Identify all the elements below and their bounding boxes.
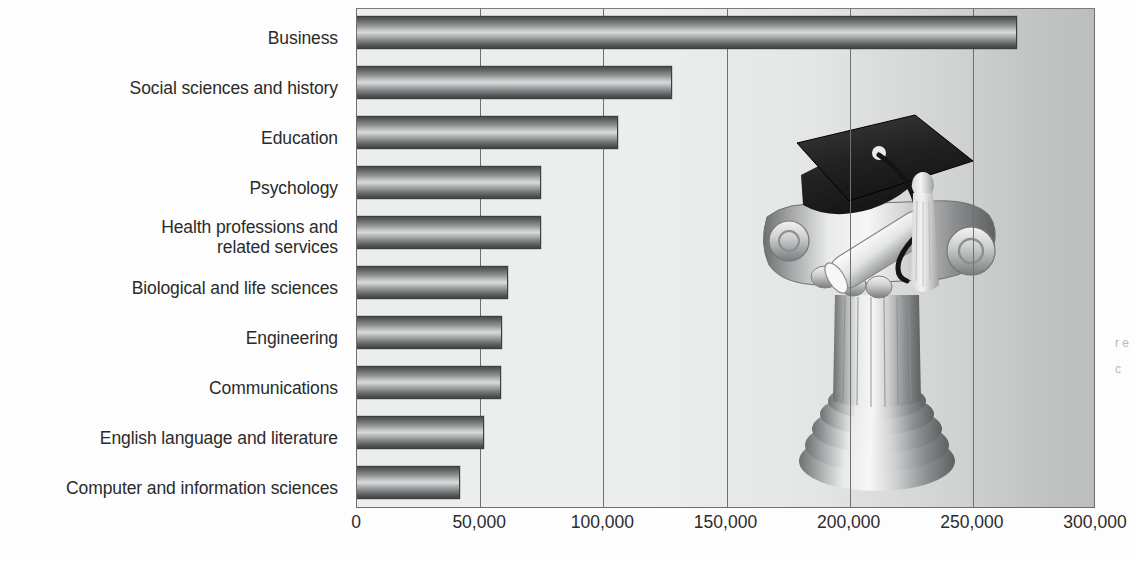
gridline xyxy=(850,9,851,507)
bar xyxy=(357,266,508,299)
bar xyxy=(357,366,501,399)
plot-inner xyxy=(357,9,1094,507)
category-label-biological-sciences: Biological and life sciences xyxy=(0,278,338,298)
category-label-computer-sciences: Computer and information sciences xyxy=(0,478,338,498)
gridline xyxy=(973,9,974,507)
category-axis-labels: Business Social sciences and history Edu… xyxy=(0,8,348,508)
x-tick-label: 150,000 xyxy=(694,512,757,533)
category-label-business: Business xyxy=(0,28,338,48)
bar-chart: Business Social sciences and history Edu… xyxy=(0,0,1135,561)
page-edge-marks: r e c xyxy=(1115,330,1133,440)
x-tick-label: 0 xyxy=(351,512,361,533)
category-label-social-sciences: Social sciences and history xyxy=(0,78,338,98)
category-label-communications: Communications xyxy=(0,378,338,398)
bar xyxy=(357,116,618,149)
category-label-health-professions: Health professions and related services xyxy=(0,217,338,257)
plot-area xyxy=(356,8,1095,508)
category-label-psychology: Psychology xyxy=(0,178,338,198)
x-tick-label: 200,000 xyxy=(817,512,880,533)
bar xyxy=(357,416,484,449)
x-tick-label: 100,000 xyxy=(571,512,634,533)
bar xyxy=(357,66,672,99)
bar xyxy=(357,216,541,249)
category-label-engineering: Engineering xyxy=(0,328,338,348)
x-tick-label: 250,000 xyxy=(940,512,1003,533)
bar xyxy=(357,316,502,349)
graduation-cap-column-illustration xyxy=(727,109,1027,507)
category-label-education: Education xyxy=(0,128,338,148)
bar xyxy=(357,166,541,199)
gridline xyxy=(727,9,728,507)
bar xyxy=(357,16,1017,49)
x-tick-label: 50,000 xyxy=(452,512,506,533)
category-label-english: English language and literature xyxy=(0,428,338,448)
bar xyxy=(357,466,460,499)
x-tick-label: 300,000 xyxy=(1063,512,1126,533)
x-axis-tick-labels: 050,000100,000150,000200,000250,000300,0… xyxy=(356,512,1095,546)
